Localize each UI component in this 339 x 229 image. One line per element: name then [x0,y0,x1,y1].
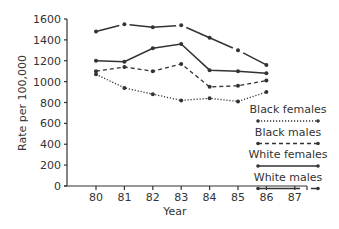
series-black-males [94,62,268,89]
data-point [179,42,183,46]
data-point [179,62,183,66]
data-point [208,96,212,100]
y-tick-label: 1200 [33,55,61,68]
legend-item: Black females [250,103,327,123]
data-point [94,72,98,76]
data-point [94,30,98,34]
y-tick-label: 400 [40,138,61,151]
x-tick-label: 84 [203,191,217,204]
data-point [179,98,183,102]
data-point [151,69,155,73]
data-point [264,63,268,67]
x-tick-label: 83 [174,191,188,204]
data-point [151,25,155,29]
x-axis-label: Year [162,205,187,218]
line-chart: 0200400600800100012001400160080818283848… [0,0,339,229]
x-tick-label: 85 [231,191,245,204]
legend-label: Black males [255,126,322,139]
data-point [179,23,183,27]
data-point [208,85,212,89]
data-point [122,22,126,26]
legend-item: Black males [255,126,322,146]
legend-label: White males [254,171,323,184]
data-point [264,71,268,75]
data-point [151,92,155,96]
x-tick-label: 87 [288,191,302,204]
x-tick-label: 82 [146,191,160,204]
series-black-females [94,72,268,103]
data-point [151,46,155,50]
legend-label: Black females [250,103,327,116]
legend-label: White females [248,148,327,161]
y-tick-label: 800 [40,97,61,110]
y-tick-label: 600 [40,117,61,130]
data-point [122,60,126,64]
y-axis-label: Rate per 100,000 [16,55,29,151]
data-point [208,36,212,40]
series-white-females [94,42,268,75]
data-point [236,69,240,73]
legend-item: White females [248,148,327,168]
data-point [208,68,212,72]
y-tick-label: 0 [54,180,61,193]
legend: Black femalesBlack malesWhite femalesWhi… [248,103,327,190]
data-point [264,79,268,83]
data-point [236,84,240,88]
data-point [236,99,240,103]
data-point [94,59,98,63]
data-lines [94,22,268,103]
x-tick-label: 80 [89,191,103,204]
x-tick-label: 81 [117,191,131,204]
data-point [264,90,268,94]
x-tick-label: 86 [259,191,273,204]
data-point [236,48,240,52]
y-tick-label: 1000 [33,76,61,89]
y-tick-label: 1400 [33,34,61,47]
data-point [122,86,126,90]
legend-item: White males [254,171,323,191]
y-tick-label: 200 [40,159,61,172]
y-tick-label: 1600 [33,13,61,26]
data-point [122,65,126,69]
